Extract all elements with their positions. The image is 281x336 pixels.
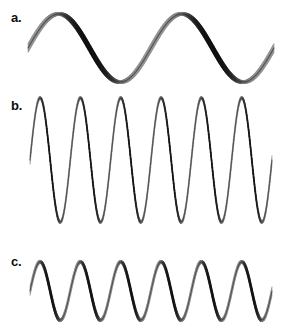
panel-c: [0, 232, 281, 336]
panel-a-label: a.: [11, 11, 21, 24]
wave-b-graphic: [0, 92, 281, 232]
wave-c-graphic: [0, 232, 281, 336]
wave-a-graphic: [0, 0, 281, 92]
panel-b-label: b.: [11, 99, 22, 112]
waveform-figure: a. b. c.: [0, 0, 281, 336]
panel-c-label: c.: [11, 255, 21, 268]
panel-a: a.: [0, 0, 281, 92]
panel-b: [0, 92, 281, 232]
